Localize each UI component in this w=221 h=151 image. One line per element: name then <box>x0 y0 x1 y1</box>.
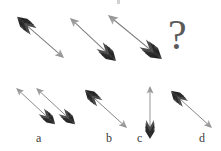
puzzle-canvas: ? a b c d <box>0 0 221 151</box>
option-label-a[interactable]: a <box>36 132 41 144</box>
option-a-arrow-2 <box>33 85 78 128</box>
option-label-c[interactable]: c <box>137 132 142 144</box>
question-mark: ? <box>168 14 187 56</box>
option-b-arrow <box>82 86 131 132</box>
option-a-arrow-1 <box>13 85 58 128</box>
option-c-arrow <box>145 86 154 139</box>
option-d-arrow <box>168 87 216 131</box>
prompt-arrow-1 <box>13 13 67 62</box>
arrow-graphics-layer <box>0 0 221 151</box>
option-label-b[interactable]: b <box>106 132 112 144</box>
option-label-d[interactable]: d <box>199 132 205 144</box>
